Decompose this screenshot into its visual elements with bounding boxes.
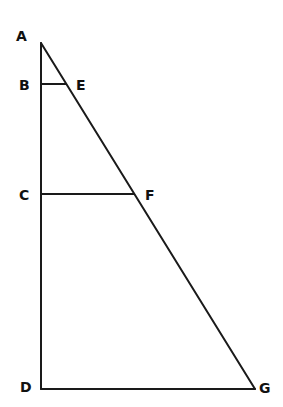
label-E: E [76,77,86,93]
geometry-diagram: A B E C F D G [0,0,283,407]
segment-AG [41,43,255,389]
label-C: C [19,187,29,203]
label-D: D [20,379,32,395]
label-G: G [259,380,271,396]
label-B: B [19,77,30,93]
label-A: A [16,28,27,44]
label-F: F [145,187,155,203]
